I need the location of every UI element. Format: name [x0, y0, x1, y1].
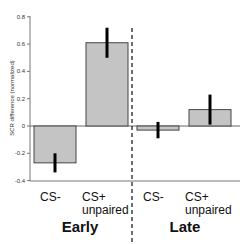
category-label: CS-	[40, 190, 61, 204]
y-tick-label: 0.4	[17, 68, 26, 74]
bar-chart: 0.80.60.40.20-0.2-0.4 SCR difference (no…	[0, 0, 249, 244]
y-tick-label: 0.6	[17, 41, 26, 47]
y-tick-label: 0	[22, 123, 26, 129]
category-label: unpaired	[185, 203, 232, 217]
y-tick-label: 0.8	[17, 14, 26, 20]
group-label-late: Late	[170, 218, 201, 235]
category-label: unpaired	[82, 203, 129, 217]
group-label-early: Early	[62, 218, 99, 235]
y-axis-label: SCR difference (normalized)	[9, 60, 15, 136]
y-tick-label: 0.2	[17, 96, 26, 102]
y-ticks: 0.80.60.40.20-0.2-0.4	[15, 14, 30, 184]
y-tick-label: -0.4	[15, 178, 26, 184]
category-label: CS+	[82, 190, 106, 204]
y-tick-label: -0.2	[15, 150, 26, 156]
category-label: CS-	[143, 190, 164, 204]
category-label: CS+	[185, 190, 209, 204]
category-labels: CS-CS+unpairedCS-CS+unpaired	[40, 190, 232, 217]
